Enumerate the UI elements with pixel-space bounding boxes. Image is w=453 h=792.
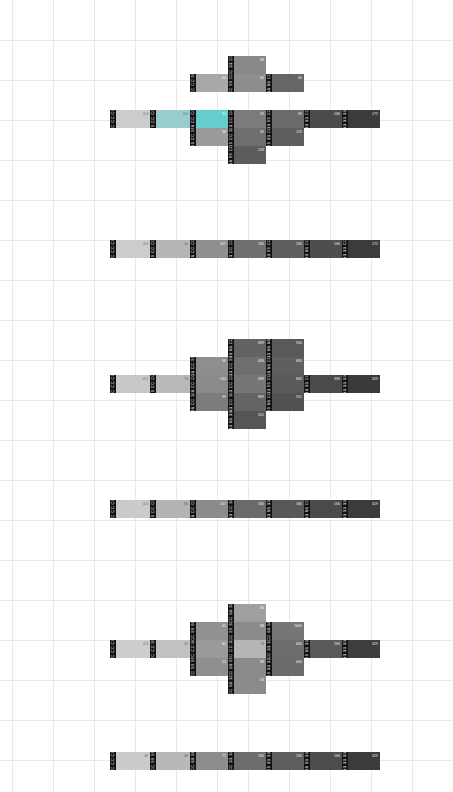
swatch-hex-badge: 33 33 33: [342, 640, 348, 658]
color-swatch[interactable]: 4.3: [110, 640, 150, 658]
swatch-value-label: 66: [298, 76, 302, 80]
swatch-hex-badge: 33 66 CC: [304, 240, 310, 258]
swatch-value-label: 166: [334, 502, 340, 506]
swatch-value-label: 38: [184, 754, 188, 758]
swatch-value-label: 899: [258, 395, 264, 399]
swatch-value-label: 4.3: [143, 377, 148, 381]
swatch-value-label: 666: [296, 642, 302, 646]
swatch-value-label: 76: [184, 377, 188, 381]
swatch-hex-badge: 33 33 CC: [304, 110, 310, 128]
swatch-hex-badge: CC 33 33: [266, 640, 272, 658]
swatch-value-label: 551: [296, 395, 302, 399]
swatch-value-label: 58: [260, 678, 264, 682]
swatch-hex-badge: CC 66 66: [190, 752, 196, 770]
swatch-hex-badge: CC 66 33: [228, 676, 234, 694]
swatch-hex-badge: 33 CC CC: [228, 375, 234, 393]
swatch-value-label: 48: [144, 754, 148, 758]
swatch-value-label: 683: [258, 377, 264, 381]
swatch-hex-badge: 99 66 CC: [266, 393, 272, 411]
swatch-hex-badge: 33 66 66: [266, 339, 272, 357]
swatch-hex-badge: 66 CC CC: [190, 500, 196, 518]
color-swatch[interactable]: 55: [150, 640, 190, 658]
swatch-hex-badge: 33 66 CC: [228, 339, 234, 357]
swatch-hex-badge: CC CC CC: [110, 752, 116, 770]
swatch-value-label: 1666: [294, 624, 302, 628]
swatch-value-label: 107: [220, 242, 226, 246]
swatch-hex-badge: 99 CC CC: [150, 110, 156, 128]
swatch-hex-badge: 99 CC CC: [150, 375, 156, 393]
swatch-hex-badge: CC 66 66: [266, 622, 272, 640]
color-swatch[interactable]: 4.5: [150, 110, 190, 128]
swatch-hex-badge: 66 33 33: [304, 752, 310, 770]
swatch-hex-badge: CC CC CC: [110, 110, 116, 128]
color-swatch[interactable]: 48: [110, 752, 150, 770]
swatch-hex-badge: 33 33 CC: [342, 240, 348, 258]
swatch-value-label: 77: [222, 754, 226, 758]
swatch-value-label: 3.3: [143, 242, 148, 246]
swatch-value-label: 3s: [184, 242, 188, 246]
swatch-value-label: 88: [260, 58, 264, 62]
swatch-hex-badge: 99 33 33: [266, 752, 272, 770]
swatch-hex-badge: CC 33 33: [228, 752, 234, 770]
swatch-stage: 4.3CC CC CC4.599 CC CC3366 CC CC64CC CC …: [0, 0, 453, 792]
swatch-hex-badge: 33 33 33: [342, 110, 348, 128]
swatch-hex-badge: CC 66 33: [228, 604, 234, 622]
swatch-value-label: 4.3: [143, 112, 148, 116]
swatch-hex-badge: 99 33 33: [266, 658, 272, 676]
swatch-value-label: 689: [258, 341, 264, 345]
swatch-hex-badge: 33 66 33: [228, 411, 234, 429]
swatch-value-label: 166: [334, 112, 340, 116]
swatch-value-label: 55: [184, 642, 188, 646]
swatch-hex-badge: 99 33 CC: [266, 128, 272, 146]
swatch-value-label: 166: [258, 242, 264, 246]
swatch-value-label: 166: [334, 754, 340, 758]
swatch-value-label: 80: [184, 502, 188, 506]
swatch-value-label: 53: [222, 660, 226, 664]
swatch-value-label: 666: [296, 660, 302, 664]
swatch-value-label: 266: [334, 642, 340, 646]
swatch-value-label: 683: [258, 359, 264, 363]
swatch-value-label: 683: [296, 359, 302, 363]
color-swatch[interactable]: 4.3: [110, 110, 150, 128]
swatch-hex-badge: 33 CC CC: [228, 110, 234, 128]
swatch-value-label: 119: [296, 130, 302, 134]
swatch-value-label: 336: [334, 377, 340, 381]
swatch-hex-badge: 33 33 CC: [304, 375, 310, 393]
swatch-hex-badge: 66 66 CC: [266, 357, 272, 375]
swatch-value-label: 38: [222, 130, 226, 134]
swatch-hex-badge: 99 66 33: [304, 640, 310, 658]
swatch-hex-badge: 66 CC CC: [190, 240, 196, 258]
swatch-value-label: 33: [222, 112, 226, 116]
swatch-value-label: 99: [222, 395, 226, 399]
swatch-hex-badge: CC CC 33: [228, 640, 234, 658]
swatch-value-label: 4.5: [183, 112, 188, 116]
swatch-value-label: 683: [296, 377, 302, 381]
swatch-value-label: 98: [298, 112, 302, 116]
color-swatch[interactable]: 3.3: [110, 240, 150, 258]
swatch-hex-badge: 66 66 CC: [266, 74, 272, 92]
swatch-value-label: 107: [220, 502, 226, 506]
swatch-hex-badge: 33 99 CC: [266, 240, 272, 258]
color-swatch[interactable]: 3s: [150, 240, 190, 258]
swatch-value-label: 172: [372, 242, 378, 246]
swatch-value-label: 429: [372, 377, 378, 381]
swatch-hex-badge: 66 CC CC: [190, 110, 196, 128]
color-swatch[interactable]: 80: [150, 500, 190, 518]
swatch-hex-badge: CC CC 99: [150, 640, 156, 658]
swatch-hex-badge: CC 99 66: [190, 622, 196, 640]
swatch-hex-badge: 33 CC CC: [228, 240, 234, 258]
swatch-value-label: 64: [222, 76, 226, 80]
color-swatch[interactable]: 76: [150, 375, 190, 393]
swatch-value-label: 172: [372, 112, 378, 116]
color-swatch[interactable]: 4.3: [110, 375, 150, 393]
color-swatch[interactable]: 4.3: [110, 500, 150, 518]
swatch-hex-badge: CC CC CC: [110, 640, 116, 658]
swatch-value-label: 166: [296, 502, 302, 506]
swatch-hex-badge: CC 99 99: [190, 658, 196, 676]
swatch-hex-badge: 66 CC CC: [190, 375, 196, 393]
swatch-value-label: 80: [260, 76, 264, 80]
swatch-hex-badge: CC 99 33: [228, 622, 234, 640]
swatch-value-label: 166: [258, 754, 264, 758]
swatch-hex-badge: 66 99 CC: [228, 146, 234, 164]
color-swatch[interactable]: 38: [150, 752, 190, 770]
